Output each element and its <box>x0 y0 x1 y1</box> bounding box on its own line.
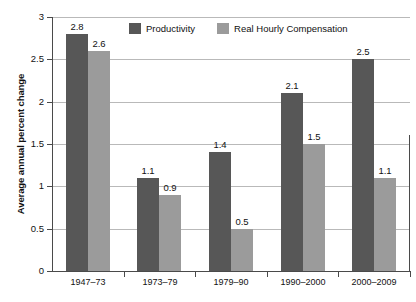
bar-value-label: 2.6 <box>82 39 116 49</box>
bar-value-label: 2.8 <box>60 22 94 32</box>
bar <box>159 195 181 271</box>
bar <box>303 144 325 271</box>
x-axis-category-label: 1990–2000 <box>267 277 339 288</box>
chart-legend: ProductivityReal Hourly Compensation <box>129 22 348 34</box>
bar-value-label: 1.4 <box>203 140 237 150</box>
bar <box>66 34 88 271</box>
bar <box>231 229 253 271</box>
legend-item: Real Hourly Compensation <box>217 23 348 34</box>
bar <box>209 152 231 271</box>
x-axis-category-label: 1973–79 <box>124 277 196 288</box>
legend-item: Productivity <box>129 23 195 34</box>
bar <box>374 178 396 271</box>
bar-value-label: 1.1 <box>131 166 165 176</box>
x-axis-separator-tick <box>338 272 339 277</box>
x-axis-category-label: 1947–73 <box>52 277 124 288</box>
bar-value-label: 0.5 <box>225 217 259 227</box>
gridline <box>52 17 410 18</box>
bar <box>281 93 303 271</box>
bar <box>88 51 110 271</box>
x-axis-category-label: 1979–90 <box>195 277 267 288</box>
legend-label: Real Hourly Compensation <box>234 23 348 34</box>
bar <box>352 59 374 271</box>
bar-value-label: 1.5 <box>297 132 331 142</box>
bar-value-label: 0.9 <box>153 183 187 193</box>
x-axis-separator-tick <box>267 272 268 277</box>
x-axis-separator-tick <box>410 272 411 277</box>
legend-swatch-icon <box>129 23 141 34</box>
y-axis-tick-label: 1 <box>0 181 44 191</box>
bar-value-label: 2.1 <box>275 81 309 91</box>
bar-chart: Average annual percent change 00.511.522… <box>0 0 416 302</box>
y-axis-tick-label: 1.5 <box>0 139 44 149</box>
x-axis-line <box>52 271 411 272</box>
y-axis-tick-label: 2 <box>0 97 44 107</box>
legend-swatch-icon <box>217 23 229 34</box>
y-axis-line <box>52 17 53 272</box>
y-axis-tick-label: 3 <box>0 12 44 22</box>
x-axis-category-label: 2000–2009 <box>338 277 410 288</box>
x-axis-separator-tick <box>124 272 125 277</box>
legend-label: Productivity <box>146 23 195 34</box>
bar-value-label: 2.5 <box>346 47 380 57</box>
right-axis-line <box>409 135 410 272</box>
bar-value-label: 1.1 <box>368 166 402 176</box>
y-axis-tick-label: 2.5 <box>0 54 44 64</box>
x-axis-separator-tick <box>195 272 196 277</box>
y-axis-tick-label: 0 <box>0 266 44 276</box>
y-axis-tick-label: 0.5 <box>0 224 44 234</box>
